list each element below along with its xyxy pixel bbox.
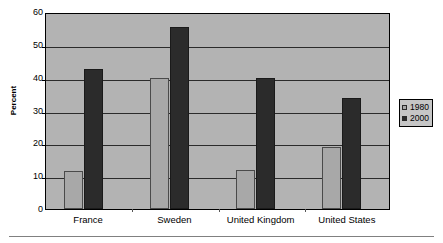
plot-area [45,13,390,210]
bar-2000-united-states [342,98,361,209]
bar-group [46,14,132,209]
y-axis-tick-label: 40 [20,74,43,83]
bar-groups-layer [46,14,389,209]
y-axis-tick-label: 60 [20,8,43,17]
y-axis-tick-label: 0 [20,205,43,214]
x-axis-tick-label: United Kingdom [218,214,304,226]
y-axis-title: Percent [9,66,18,136]
legend-swatch-icon [402,116,407,121]
x-axis-tick-label: France [45,214,131,226]
legend-item: 2000 [402,113,429,124]
y-axis-tick-labels: 6050403020100 [20,0,43,243]
legend-label: 1980 [410,103,429,112]
bar-1980-sweden [150,78,169,209]
legend-item: 1980 [402,102,429,113]
x-axis-tick-label: Sweden [131,214,217,226]
bar-2000-sweden [170,27,189,209]
footer-divider [9,236,434,237]
x-axis-tick-labels: FranceSwedenUnited KingdomUnited States [45,214,390,232]
y-axis-tick-label: 50 [20,41,43,50]
category-separator [132,209,133,212]
bar-group [132,14,218,209]
bar-2000-united-kingdom [256,78,275,209]
bar-1980-united-states [322,147,341,209]
x-axis-tick-label: United States [304,214,390,226]
bar-group [305,14,391,209]
legend-swatch-icon [402,105,407,110]
category-separator [305,209,306,212]
y-axis-tick-label: 20 [20,139,43,148]
plot-inner [46,14,389,209]
legend-label: 2000 [410,114,429,123]
bar-chart-figure: Percent 6050403020100 FranceSwedenUnited… [0,0,443,243]
bar-2000-france [84,69,103,209]
y-axis-tick-label: 30 [20,107,43,116]
y-axis-tick-label: 10 [20,172,43,181]
bar-1980-united-kingdom [236,170,255,209]
bar-group [219,14,305,209]
category-separator [219,209,220,212]
bar-1980-france [64,171,83,209]
chart-legend: 19802000 [399,99,433,127]
